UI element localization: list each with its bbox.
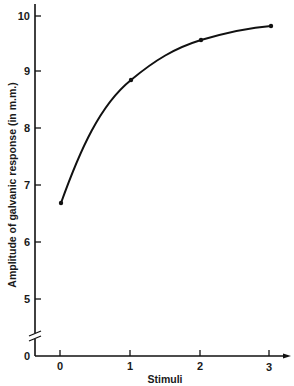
chart: 10 9 8 7 6 5 0 0 1 2 3 Stimuli Amplitude…	[0, 0, 294, 386]
y-tick-label: 7	[24, 179, 30, 191]
x-tick-labels: 0 1 2 3	[57, 360, 272, 373]
y-axis-title: Amplitude of galvanic response (in m.m.)	[6, 82, 18, 287]
y-tick-label: 0	[24, 350, 30, 362]
data-point	[129, 78, 133, 82]
x-axis-arrow-icon	[283, 354, 291, 359]
x-ticks	[60, 350, 269, 356]
y-tick-label: 10	[18, 10, 30, 22]
y-ticks	[35, 16, 41, 299]
y-tick-label: 5	[24, 293, 30, 305]
y-tick-labels: 10 9 8 7 6 5 0	[18, 10, 30, 362]
y-tick-label: 6	[24, 236, 30, 248]
data-point	[269, 24, 273, 28]
data-points	[59, 24, 273, 205]
x-tick-label: 0	[57, 360, 63, 372]
x-axis-title: Stimuli	[147, 373, 182, 385]
y-tick-label: 9	[24, 65, 30, 77]
x-tick-label: 3	[266, 361, 272, 373]
x-tick-label: 2	[197, 360, 203, 372]
y-tick-label: 8	[24, 122, 30, 134]
data-point	[59, 201, 63, 205]
data-curve	[61, 26, 271, 203]
data-point	[199, 38, 203, 42]
x-tick-label: 1	[127, 360, 133, 372]
